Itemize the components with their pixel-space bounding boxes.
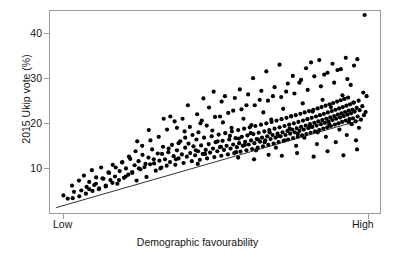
data-point <box>286 81 290 85</box>
data-point <box>202 136 206 140</box>
data-point <box>319 84 323 88</box>
data-point <box>258 98 262 102</box>
data-point <box>274 118 278 122</box>
data-point <box>279 117 283 121</box>
data-point <box>280 154 284 158</box>
data-point <box>97 186 101 190</box>
data-point <box>360 104 364 108</box>
data-point <box>277 125 281 129</box>
data-point <box>223 131 227 135</box>
data-point <box>283 133 287 137</box>
data-point <box>330 109 334 113</box>
data-point <box>241 117 245 121</box>
data-point <box>118 169 122 173</box>
data-point <box>267 153 271 157</box>
data-point <box>312 155 316 159</box>
data-point <box>110 181 114 185</box>
data-point <box>191 144 195 148</box>
data-point <box>279 95 283 99</box>
data-point <box>233 96 237 100</box>
data-point <box>228 134 232 138</box>
data-point <box>361 91 365 95</box>
data-point <box>302 127 306 131</box>
data-point <box>167 146 171 150</box>
data-point <box>323 121 327 125</box>
data-point <box>168 114 172 118</box>
data-point <box>72 190 76 194</box>
data-points-layer <box>61 13 368 201</box>
data-point <box>84 192 88 196</box>
data-point <box>357 99 361 103</box>
data-point <box>234 150 238 154</box>
data-point <box>90 189 94 193</box>
data-point <box>341 105 345 109</box>
data-point <box>161 145 165 149</box>
data-point <box>264 69 268 73</box>
data-point <box>219 145 223 149</box>
data-point <box>357 126 361 130</box>
data-point <box>238 87 242 91</box>
data-point <box>346 95 350 99</box>
data-point <box>94 175 98 179</box>
data-point <box>335 100 339 104</box>
data-point <box>157 135 161 139</box>
data-point <box>355 57 359 61</box>
data-point <box>195 112 199 116</box>
data-point <box>359 118 363 122</box>
data-point <box>304 66 308 70</box>
data-point <box>259 123 263 127</box>
data-point <box>330 62 334 66</box>
data-point <box>251 76 255 80</box>
data-point <box>291 74 295 78</box>
data-point <box>252 157 256 161</box>
data-point <box>148 162 152 166</box>
data-point <box>114 165 118 169</box>
data-point <box>325 149 329 153</box>
data-point <box>196 162 200 166</box>
data-point <box>365 94 369 98</box>
data-point <box>324 135 328 139</box>
data-point <box>331 101 335 105</box>
data-point <box>338 115 342 119</box>
data-point <box>351 100 355 104</box>
data-point <box>345 133 349 137</box>
data-point <box>323 104 327 108</box>
data-point <box>231 109 235 113</box>
data-point <box>322 72 326 76</box>
data-point <box>113 174 117 178</box>
data-point <box>79 188 83 192</box>
data-point <box>211 146 215 150</box>
data-point <box>257 131 261 135</box>
regression-line <box>56 120 361 208</box>
data-point <box>223 94 227 98</box>
data-point <box>198 121 202 125</box>
data-point <box>181 161 185 165</box>
data-point <box>70 183 74 187</box>
data-point <box>218 114 222 118</box>
data-point <box>340 93 344 97</box>
data-point <box>263 140 267 144</box>
data-point <box>287 123 291 127</box>
scatter-plot-figure: 2015 Ukip vote (%) Demographic favourabi… <box>0 0 395 259</box>
data-point <box>238 150 242 154</box>
data-point <box>136 159 140 163</box>
data-point <box>295 151 299 155</box>
data-point <box>292 121 296 125</box>
data-point <box>221 139 225 143</box>
data-point <box>256 137 260 141</box>
data-point <box>272 127 276 131</box>
data-point <box>282 124 286 128</box>
data-point <box>249 131 253 135</box>
data-point <box>224 144 228 148</box>
data-point <box>174 157 178 161</box>
data-point <box>332 81 336 85</box>
data-point <box>186 103 190 107</box>
data-point <box>337 106 341 110</box>
data-point <box>349 111 353 115</box>
data-point <box>222 148 226 152</box>
data-point <box>284 116 288 120</box>
data-point <box>71 196 75 200</box>
data-point <box>312 74 316 78</box>
data-point <box>115 182 119 186</box>
data-point <box>272 85 276 89</box>
